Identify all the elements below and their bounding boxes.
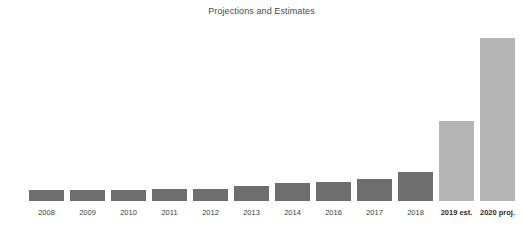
bar-projected <box>439 121 474 201</box>
x-axis-label: 2020 proj. <box>474 208 521 217</box>
bar-projected <box>480 38 515 201</box>
x-axis-label: 2011 <box>146 208 193 217</box>
chart-container: Projections and Estimates 20082009201020… <box>0 0 523 231</box>
bar-historical <box>398 172 433 201</box>
bar-historical <box>316 182 351 201</box>
bar-group: 2011 <box>152 0 187 231</box>
bar-historical <box>234 186 269 201</box>
bar-historical <box>29 190 64 201</box>
bar-group: 2020 proj. <box>480 0 515 231</box>
x-axis-label: 2012 <box>187 208 234 217</box>
x-axis-label: 2013 <box>228 208 275 217</box>
bar-group: 2018 <box>398 0 433 231</box>
x-axis-label: 2010 <box>105 208 152 217</box>
x-axis-label: 2019 est. <box>433 208 480 217</box>
bar-group: 2017 <box>357 0 392 231</box>
x-axis-label: 2017 <box>351 208 398 217</box>
bar-group: 2009 <box>70 0 105 231</box>
bar-historical <box>152 189 187 201</box>
x-axis-label: 2014 <box>269 208 316 217</box>
bar-historical <box>357 179 392 201</box>
bar-group: 2008 <box>29 0 64 231</box>
x-axis-label: 2009 <box>64 208 111 217</box>
bar-group: 2013 <box>234 0 269 231</box>
plot-area: 2008200920102011201220132014201620172018… <box>0 0 523 231</box>
x-axis-label: 2016 <box>310 208 357 217</box>
bar-group: 2010 <box>111 0 146 231</box>
bar-historical <box>70 190 105 201</box>
bar-historical <box>275 183 310 201</box>
x-axis-label: 2018 <box>392 208 439 217</box>
bar-group: 2016 <box>316 0 351 231</box>
bar-group: 2012 <box>193 0 228 231</box>
bar-historical <box>193 189 228 201</box>
bar-group: 2014 <box>275 0 310 231</box>
x-axis-label: 2008 <box>23 208 70 217</box>
bar-historical <box>111 190 146 201</box>
bar-group: 2019 est. <box>439 0 474 231</box>
